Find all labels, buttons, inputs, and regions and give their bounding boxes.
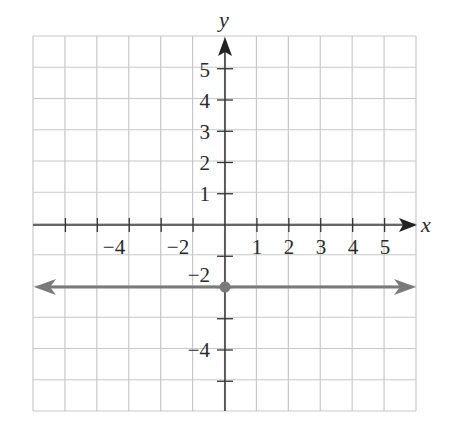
y-tick-label: 1 [200,182,211,206]
coordinate-plane: x y −4 −2 1 2 3 4 5 5 4 3 2 1 −2 −4 [0,0,455,431]
x-tick-label: 5 [380,235,391,259]
x-tick-label: 3 [316,235,327,259]
y-tick-label: 5 [200,58,211,82]
x-tick-label: 4 [348,235,359,259]
x-tick-label: 2 [284,235,295,259]
y-tick-label: −4 [188,338,211,362]
x-tick-label: −4 [103,235,126,259]
y-tick-label: −2 [188,263,210,287]
x-axis-label: x [420,212,431,237]
y-tick-label: 4 [200,89,211,113]
y-axis-label: y [217,7,229,32]
x-tick-label: −2 [167,235,189,259]
y-tick-label: 3 [200,120,211,144]
y-tick-label: 2 [200,151,211,175]
y-intercept-point [220,282,231,293]
x-tick-label: 1 [252,235,263,259]
